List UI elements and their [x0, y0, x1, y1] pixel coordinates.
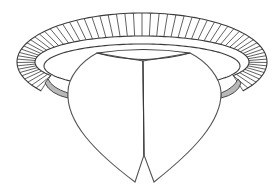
- collar-rib-line: [149, 13, 150, 36]
- collar-rib-line: [100, 16, 106, 38]
- collar-rib-line: [70, 22, 80, 41]
- collar-rib-line: [24, 46, 41, 54]
- collar-rib-line: [164, 14, 168, 37]
- collar-rib-line: [25, 71, 42, 79]
- bud-petal-left: [68, 53, 144, 182]
- collar-rib-line: [243, 46, 260, 54]
- collar-rib-line: [157, 13, 159, 36]
- collar-shadow-right: [221, 79, 241, 98]
- collar-rib-line: [84, 19, 92, 39]
- collar-rib-line: [225, 31, 239, 45]
- collar-rib-line: [240, 73, 256, 82]
- collar-rib-line: [178, 16, 184, 38]
- collar-rib-line: [22, 69, 39, 75]
- collar-rib-line: [249, 59, 267, 60]
- collar-rib-line: [35, 37, 50, 49]
- collar-rib-line: [230, 34, 245, 47]
- bud-collar-diagram: [0, 0, 280, 193]
- collar-rib-line: [245, 49, 262, 55]
- diagram-canvas: [0, 0, 280, 193]
- collar-rib-line: [27, 43, 44, 52]
- collar-rib-line: [50, 29, 63, 45]
- collar-rib-line: [192, 19, 200, 39]
- collar-rib-line: [240, 43, 257, 52]
- collar-rib-line: [45, 31, 59, 45]
- collar-rib-line: [237, 40, 253, 50]
- collar-rib-line: [185, 17, 192, 38]
- collar-shadow-left: [45, 79, 68, 98]
- collar-rib-line: [245, 69, 262, 75]
- collar-rib-line: [31, 40, 47, 50]
- collar-rib-line: [204, 22, 214, 41]
- collar-rib-line: [242, 71, 259, 79]
- collar-rib-line: [28, 73, 44, 82]
- collar-rib-line: [108, 15, 113, 37]
- collar-rib-line: [56, 26, 68, 43]
- collar-rib-line: [133, 13, 134, 36]
- collar-rib-line: [125, 13, 127, 36]
- collar-rib-line: [234, 37, 249, 49]
- collar-rib-line: [17, 64, 35, 66]
- collar-rib-line: [92, 17, 99, 38]
- collar-rib-line: [249, 64, 267, 66]
- collar-rib-line: [39, 34, 54, 47]
- collar-rib-line: [17, 59, 35, 60]
- collar-rib-line: [116, 14, 120, 37]
- collar-rib-line: [221, 29, 234, 45]
- bud-petal-right: [143, 53, 221, 182]
- collar-rib-line: [21, 49, 38, 55]
- collar-rib-line: [215, 26, 227, 43]
- collar-rib-line: [171, 15, 176, 37]
